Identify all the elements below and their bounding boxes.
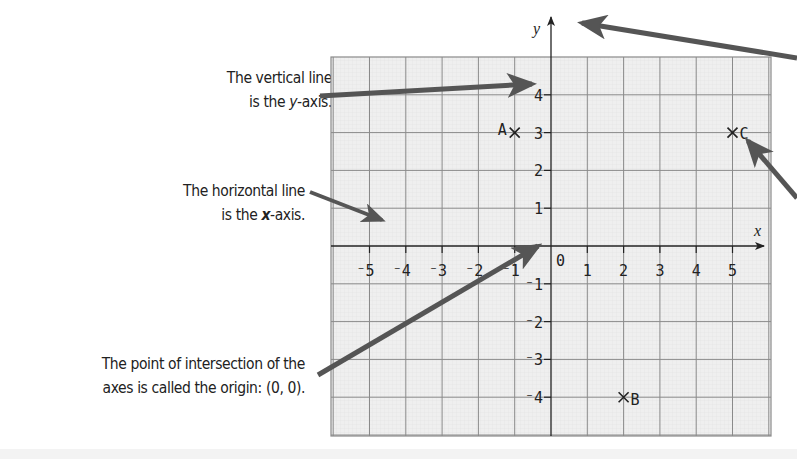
point-label: A (498, 121, 507, 139)
x-tick-label: 2 (619, 262, 628, 280)
y-tick-label: 3 (534, 125, 543, 143)
y-tick-label: 2 (534, 162, 543, 180)
y-tick-label: ⁻2 (525, 314, 543, 332)
x-tick-label: 3 (655, 262, 664, 280)
x-tick-label: 4 (692, 262, 701, 280)
x-tick-label: ⁻3 (429, 262, 447, 280)
y-tick-label: 1 (534, 200, 543, 218)
x-tick-label: ⁻4 (393, 262, 411, 280)
x-tick-label: ⁻5 (356, 262, 374, 280)
point-label: C (740, 125, 749, 143)
y-tick-label: ⁻4 (525, 389, 543, 407)
y-label-arrow (582, 23, 797, 58)
x-tick-label: 1 (583, 262, 592, 280)
origin-label: 0 (556, 252, 565, 270)
point-label: B (631, 391, 640, 409)
y-tick-label: ⁻3 (525, 351, 543, 369)
y-axis-label: y (531, 20, 541, 38)
x-axis-label: x (753, 222, 761, 239)
footer-band (0, 449, 797, 459)
x-tick-label: 5 (728, 262, 737, 280)
y-tick-label: ⁻1 (525, 276, 543, 294)
y-tick-label: 4 (534, 87, 543, 105)
coordinate-grid-diagram: x y ⁻5⁻4⁻3⁻2⁻1123454321⁻1⁻2⁻3⁻4 0 ABC (0, 0, 797, 459)
